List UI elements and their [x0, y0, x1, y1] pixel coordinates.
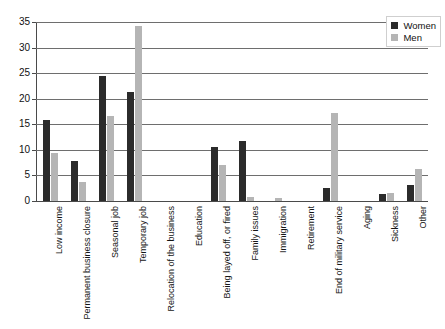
- category-label: End of military service: [334, 206, 345, 326]
- legend-label-men: Men: [403, 32, 421, 43]
- bar-men[interactable]: [387, 193, 394, 201]
- category-label: Family issues: [250, 206, 261, 326]
- bar-group: [183, 22, 198, 201]
- bar-women[interactable]: [323, 188, 330, 201]
- bar-group: [295, 22, 310, 201]
- bar-women[interactable]: [379, 194, 386, 201]
- category-label: Aging: [362, 206, 373, 326]
- bar-women[interactable]: [43, 120, 50, 201]
- legend-item-men[interactable]: Men: [391, 31, 436, 43]
- bar-chart: 05101520253035 Low incomePermanent busin…: [0, 0, 445, 329]
- bar-men[interactable]: [331, 113, 338, 201]
- y-tick-label-0: 0: [0, 196, 30, 206]
- category-label: Retirement: [306, 206, 317, 326]
- gridline-20: [36, 99, 428, 100]
- plot-area: [36, 22, 428, 201]
- y-tick-label-10: 10: [0, 145, 30, 155]
- bar-women[interactable]: [127, 92, 134, 201]
- category-label: Temporary job: [138, 206, 149, 326]
- bar-group: [323, 22, 338, 201]
- x-axis-baseline: [36, 201, 428, 202]
- category-label: Sickness: [390, 206, 401, 326]
- bar-women[interactable]: [71, 161, 78, 201]
- bar-men[interactable]: [79, 182, 86, 201]
- legend-label-women: Women: [403, 20, 436, 31]
- y-tick-label-30: 30: [0, 43, 30, 53]
- bar-group: [379, 22, 394, 201]
- bar-women[interactable]: [99, 76, 106, 201]
- gridline-25: [36, 73, 428, 74]
- bar-women[interactable]: [211, 147, 218, 201]
- bar-men[interactable]: [107, 116, 114, 201]
- gridline-5: [36, 175, 428, 176]
- gridline-35: [36, 22, 428, 23]
- bar-group: [211, 22, 226, 201]
- bar-group: [43, 22, 58, 201]
- legend-swatch-women-icon: [391, 22, 398, 29]
- bar-women[interactable]: [239, 141, 246, 201]
- gridline-10: [36, 150, 428, 151]
- bar-group: [99, 22, 114, 201]
- category-label: Education: [194, 206, 205, 326]
- category-label: Other: [418, 206, 429, 326]
- bar-group: [155, 22, 170, 201]
- bar-group: [407, 22, 422, 201]
- bar-group: [267, 22, 282, 201]
- bar-group: [127, 22, 142, 201]
- y-tick-label-20: 20: [0, 94, 30, 104]
- category-label: Being layed off, or fired: [222, 206, 233, 326]
- legend-item-women[interactable]: Women: [391, 19, 436, 31]
- bar-men[interactable]: [247, 197, 254, 201]
- bar-men[interactable]: [51, 153, 58, 201]
- y-tick-label-25: 25: [0, 68, 30, 78]
- bar-group: [71, 22, 86, 201]
- category-label: Relocation of the business: [166, 206, 177, 326]
- gridline-30: [36, 48, 428, 49]
- bar-men[interactable]: [275, 198, 282, 201]
- category-label: Permanent business closure: [82, 206, 93, 326]
- bar-men[interactable]: [219, 165, 226, 201]
- y-tick-label-5: 5: [0, 170, 30, 180]
- category-label: Low income: [54, 206, 65, 326]
- y-tick-label-15: 15: [0, 119, 30, 129]
- bar-group: [351, 22, 366, 201]
- bar-group: [239, 22, 254, 201]
- legend-swatch-men-icon: [391, 34, 398, 41]
- gridline-15: [36, 124, 428, 125]
- y-tick-label-35: 35: [0, 17, 30, 27]
- category-label: Seasonal job: [110, 206, 121, 326]
- chart-legend: Women Men: [386, 16, 441, 47]
- bar-women[interactable]: [407, 185, 414, 201]
- bar-men[interactable]: [415, 169, 422, 201]
- category-label: Immigration: [278, 206, 289, 326]
- bar-men[interactable]: [135, 26, 142, 201]
